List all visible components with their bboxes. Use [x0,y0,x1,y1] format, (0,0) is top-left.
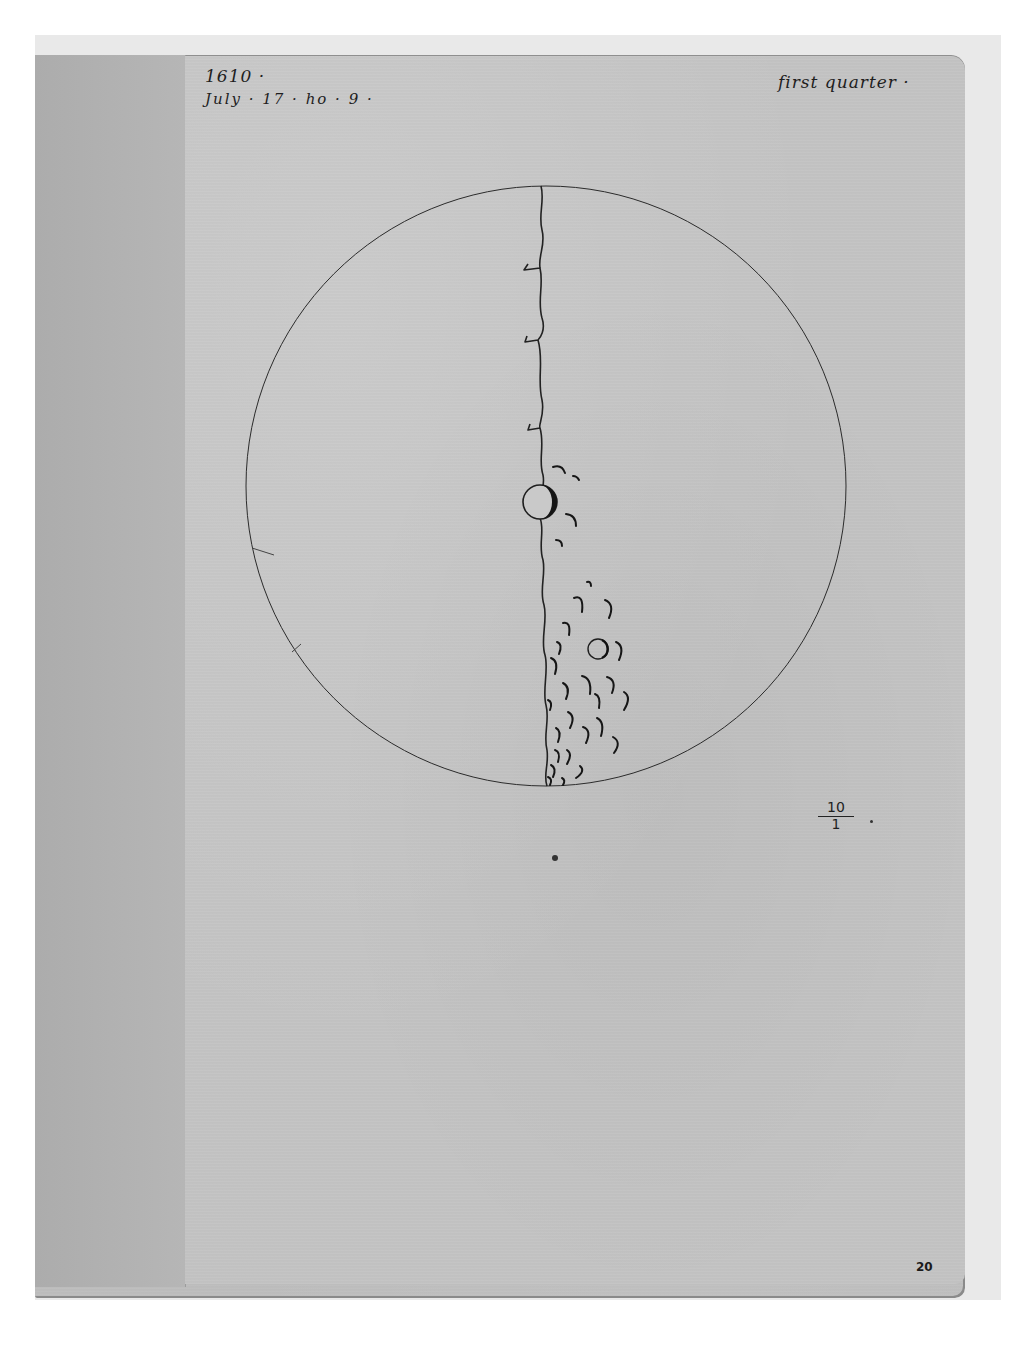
stray-pen-marks [252,548,301,652]
crescent-craters [548,466,628,785]
large-crater [523,485,557,519]
magnification-numerator: 10 [818,800,854,817]
moon-drawing [0,0,1011,1349]
isolated-crater [588,639,608,659]
fraction-dot [870,820,873,823]
magnification-denominator: 1 [818,817,854,832]
folio-number: 20 [916,1260,933,1274]
ink-blot [552,855,558,861]
magnification-fraction: 10 1 [818,800,854,832]
